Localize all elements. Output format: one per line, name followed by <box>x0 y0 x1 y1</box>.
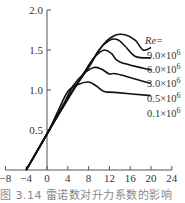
x-tick-label: 24 <box>166 172 178 184</box>
legend-title: Re= <box>144 35 163 46</box>
curves <box>26 34 151 170</box>
legend-entry: 0.5×106 <box>147 91 181 104</box>
x-tick-label: 8 <box>86 172 92 184</box>
x-tick-label: 20 <box>146 172 158 184</box>
x-tick-label: −8 <box>0 172 12 184</box>
y-tick-label: 0.5 <box>29 124 43 136</box>
lift-coefficient-chart: 0.51.01.52.0 −8−404812162024 Re=9.0×1066… <box>0 0 185 203</box>
legend-entry: 9.0×106 <box>147 48 181 61</box>
legend-entry: 0.1×106 <box>147 106 181 119</box>
figure-caption: 图 3.14 雷诺数对升力系数的影响 <box>0 186 185 202</box>
y-tick-label: 1.0 <box>29 84 43 96</box>
curve-re-1 <box>26 39 151 170</box>
curve-re-4 <box>26 82 151 170</box>
x-tick-label: 16 <box>125 172 137 184</box>
y-tick-label: 1.5 <box>29 44 43 56</box>
x-tick-label: 4 <box>65 172 71 184</box>
x-tick-label: 0 <box>44 172 50 184</box>
legend-entry: 3.0×106 <box>147 76 181 89</box>
x-tick-label: −4 <box>20 172 32 184</box>
x-tick-label: 12 <box>104 172 115 184</box>
y-tick-label: 2.0 <box>29 4 43 16</box>
legend-entry: 6.0×106 <box>147 62 181 75</box>
